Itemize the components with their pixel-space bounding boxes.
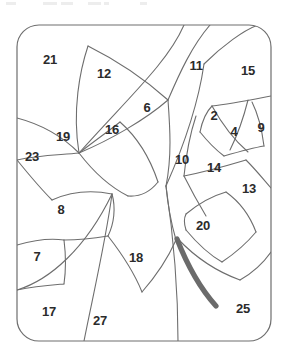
- region-label-9: 9: [258, 120, 265, 135]
- puzzle-canvas: 21 12 11 15 6 2 4 9 19 16 23 10 14 13 8 …: [0, 0, 288, 359]
- region-label-2: 2: [211, 108, 218, 123]
- region-label-23: 23: [25, 149, 39, 164]
- region-label-4: 4: [231, 124, 239, 139]
- region-label-13: 13: [242, 181, 256, 196]
- region-label-25: 25: [236, 301, 250, 316]
- region-label-16: 16: [105, 122, 119, 137]
- region-label-15: 15: [241, 63, 255, 78]
- region-label-20: 20: [196, 218, 210, 233]
- puzzle-border: [17, 25, 271, 341]
- region-label-27: 27: [93, 313, 107, 328]
- region-label-7: 7: [34, 249, 41, 264]
- region-label-14: 14: [207, 160, 222, 175]
- region-label-19: 19: [56, 129, 70, 144]
- region-label-12: 12: [97, 66, 111, 81]
- region-label-10: 10: [175, 152, 189, 167]
- region-label-8: 8: [58, 202, 65, 217]
- region-label-6: 6: [144, 100, 151, 115]
- top-cut-marks: [6, 2, 147, 5]
- region-label-21: 21: [43, 52, 57, 67]
- region-label-18: 18: [129, 250, 143, 265]
- region-label-11: 11: [189, 58, 202, 73]
- region-label-17: 17: [42, 304, 56, 319]
